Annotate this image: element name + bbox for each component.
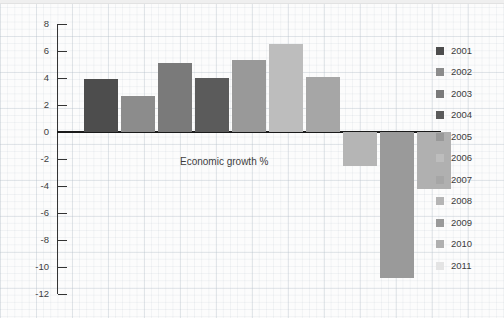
legend-item-label: 2011 <box>451 261 471 271</box>
y-axis-tick-label: -12 <box>19 289 49 299</box>
y-axis-tick-mark <box>58 240 67 241</box>
legend-item-label: 2009 <box>451 218 472 228</box>
bar <box>158 63 192 132</box>
legend: 2001200220032004200520062007200820092010… <box>436 40 496 277</box>
bar <box>195 78 229 132</box>
y-axis-tick-label: -10 <box>19 262 49 272</box>
y-axis-tick-label: -6 <box>19 208 49 218</box>
legend-item-label: 2007 <box>451 175 472 185</box>
bar <box>121 96 155 132</box>
y-axis-tick-mark <box>58 51 67 52</box>
legend-color-swatch-icon <box>436 47 444 55</box>
y-axis-tick-label: 0 <box>19 127 49 137</box>
y-axis-tick-label: 2 <box>19 100 49 110</box>
y-axis-tick-label: -2 <box>19 154 49 164</box>
legend-color-swatch-icon <box>436 133 444 141</box>
legend-color-swatch-icon <box>436 176 444 184</box>
y-axis-tick-mark <box>58 294 67 295</box>
legend-item[interactable]: 2005 <box>436 126 496 148</box>
legend-item[interactable]: 2004 <box>436 105 496 127</box>
legend-color-swatch-icon <box>436 219 444 227</box>
legend-color-swatch-icon <box>436 262 444 270</box>
y-axis-tick-mark <box>58 159 67 160</box>
bar <box>269 44 303 132</box>
bar <box>84 79 118 132</box>
legend-item[interactable]: 2011 <box>436 255 496 277</box>
legend-item-label: 2004 <box>451 110 472 120</box>
legend-item-label: 2003 <box>451 89 472 99</box>
legend-item-label: 2002 <box>451 67 472 77</box>
legend-item[interactable]: 2002 <box>436 62 496 84</box>
legend-item-label: 2010 <box>451 239 472 249</box>
legend-color-swatch-icon <box>436 90 444 98</box>
legend-color-swatch-icon <box>436 68 444 76</box>
y-axis-tick-label: -4 <box>19 181 49 191</box>
legend-item[interactable]: 2003 <box>436 83 496 105</box>
legend-color-swatch-icon <box>436 154 444 162</box>
bar <box>232 60 266 132</box>
y-axis-tick-mark <box>58 105 67 106</box>
bar <box>380 132 414 278</box>
bar <box>343 132 377 166</box>
legend-item[interactable]: 2007 <box>436 169 496 191</box>
legend-color-swatch-icon <box>436 240 444 248</box>
chart-page: 86420-2-4-6-8-10-12 Economic growth % 20… <box>0 0 504 318</box>
legend-item-label: 2006 <box>451 153 472 163</box>
legend-item-label: 2005 <box>451 132 472 142</box>
y-axis-tick-label: 8 <box>19 19 49 29</box>
legend-item[interactable]: 2008 <box>436 191 496 213</box>
legend-item-label: 2001 <box>451 46 472 56</box>
legend-item[interactable]: 2001 <box>436 40 496 62</box>
y-axis-tick-label: 6 <box>19 46 49 56</box>
legend-item-label: 2008 <box>451 196 472 206</box>
bar-chart-plot-area: 86420-2-4-6-8-10-12 Economic growth % <box>0 0 504 318</box>
y-axis-tick-mark <box>58 24 67 25</box>
legend-item[interactable]: 2006 <box>436 148 496 170</box>
chart-annotation-label: Economic growth % <box>180 156 268 167</box>
bar <box>306 77 340 132</box>
y-axis-tick-mark <box>58 186 67 187</box>
y-axis-tick-label: 4 <box>19 73 49 83</box>
y-axis-tick-label: -8 <box>19 235 49 245</box>
y-axis-tick-mark <box>58 78 67 79</box>
legend-color-swatch-icon <box>436 197 444 205</box>
y-axis-tick-mark <box>58 213 67 214</box>
y-axis-tick-mark <box>58 267 67 268</box>
legend-item[interactable]: 2010 <box>436 234 496 256</box>
legend-item[interactable]: 2009 <box>436 212 496 234</box>
legend-color-swatch-icon <box>436 111 444 119</box>
